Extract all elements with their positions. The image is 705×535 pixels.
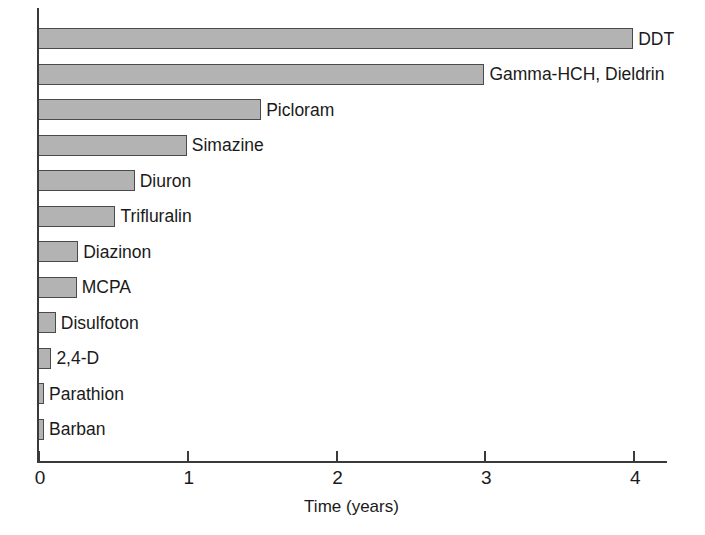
x-tick xyxy=(484,451,486,462)
bar-label: DDT xyxy=(638,29,674,49)
y-axis-line xyxy=(37,8,39,463)
bar xyxy=(38,170,135,191)
x-tick xyxy=(336,451,338,462)
x-tick xyxy=(38,451,40,462)
bar-label: Disulfoton xyxy=(61,313,139,333)
bar xyxy=(38,277,77,298)
bar xyxy=(38,348,51,369)
bar xyxy=(38,99,261,120)
bar-label: Gamma-HCH, Dieldrin xyxy=(489,64,664,84)
x-axis-line xyxy=(37,461,667,463)
x-axis-title-text: Time (years) xyxy=(304,497,399,517)
bar xyxy=(38,241,78,262)
bar-chart: DDTGamma-HCH, DieldrinPicloramSimazineDi… xyxy=(0,0,705,535)
x-tick-label: 4 xyxy=(615,466,655,490)
x-tick-label: 0 xyxy=(20,466,60,490)
bar-label: Simazine xyxy=(192,135,264,155)
bar xyxy=(38,312,56,333)
bar-label: Parathion xyxy=(49,384,124,404)
bar-label: Barban xyxy=(49,419,105,439)
bar-label: 2,4-D xyxy=(56,348,99,368)
bar-label: Diuron xyxy=(140,171,192,191)
bar-label: Diazinon xyxy=(83,242,151,262)
bar xyxy=(38,28,633,49)
x-tick xyxy=(187,451,189,462)
bar xyxy=(38,206,115,227)
bar-label: MCPA xyxy=(82,277,131,297)
bars-layer: DDTGamma-HCH, DieldrinPicloramSimazineDi… xyxy=(0,0,705,535)
bar xyxy=(38,135,187,156)
bar xyxy=(38,64,484,85)
x-axis-title: Time (years) xyxy=(0,497,705,517)
x-tick-label: 3 xyxy=(466,466,506,490)
x-tick-label: 1 xyxy=(169,466,209,490)
x-tick-label: 2 xyxy=(318,466,358,490)
bar-label: Trifluralin xyxy=(120,206,191,226)
bar-label: Picloram xyxy=(266,100,334,120)
x-tick xyxy=(633,451,635,462)
